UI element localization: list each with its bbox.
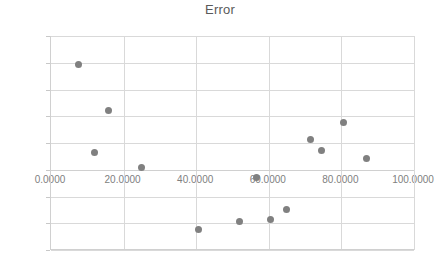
x-axis-frame-line [51, 249, 414, 250]
data-point[interactable] [236, 218, 243, 225]
gridline-horizontal [51, 223, 414, 224]
data-point[interactable] [105, 107, 112, 114]
gridline-vertical [124, 36, 125, 250]
scatter-chart: Error 1.00000.80000.60000.40000.20000.00… [0, 0, 440, 264]
data-point[interactable] [91, 149, 98, 156]
gridline-vertical [341, 36, 342, 250]
gridline-horizontal [51, 250, 414, 251]
data-point[interactable] [283, 206, 290, 213]
data-point[interactable] [138, 164, 145, 171]
data-point[interactable] [363, 155, 370, 162]
plot-area [50, 36, 413, 250]
gridline-horizontal [51, 63, 414, 64]
chart-title: Error [0, 2, 440, 17]
data-point[interactable] [75, 61, 82, 68]
data-point[interactable] [253, 174, 260, 181]
gridline-horizontal [51, 143, 414, 144]
data-point[interactable] [340, 119, 347, 126]
gridline-horizontal [51, 90, 414, 91]
x-axis-zero-line [51, 170, 414, 171]
gridline-vertical [414, 36, 415, 250]
data-point[interactable] [195, 226, 202, 233]
gridline-horizontal [51, 197, 414, 198]
gridline-vertical [196, 36, 197, 250]
y-axis-tick-mark [46, 250, 50, 251]
gridline-horizontal [51, 36, 414, 37]
gridline-horizontal [51, 116, 414, 117]
data-point[interactable] [318, 147, 325, 154]
